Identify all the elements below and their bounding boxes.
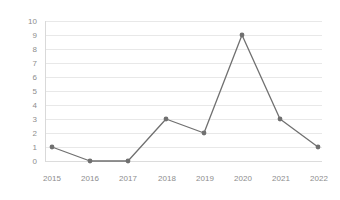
data-point-2022 bbox=[316, 145, 321, 150]
data-point-2020 bbox=[240, 33, 245, 38]
data-point-2021 bbox=[278, 117, 283, 122]
data-point-2017 bbox=[126, 159, 131, 164]
data-point-2015 bbox=[50, 145, 55, 150]
data-point-2018 bbox=[164, 117, 169, 122]
chart-screenshot: 10 9 8 7 6 5 4 3 2 1 0 2015 2016 2017 20… bbox=[0, 0, 340, 200]
series-line bbox=[52, 35, 318, 161]
data-series-layer bbox=[0, 0, 340, 200]
data-point-2016 bbox=[88, 159, 93, 164]
series-markers bbox=[50, 33, 321, 164]
data-point-2019 bbox=[202, 131, 207, 136]
